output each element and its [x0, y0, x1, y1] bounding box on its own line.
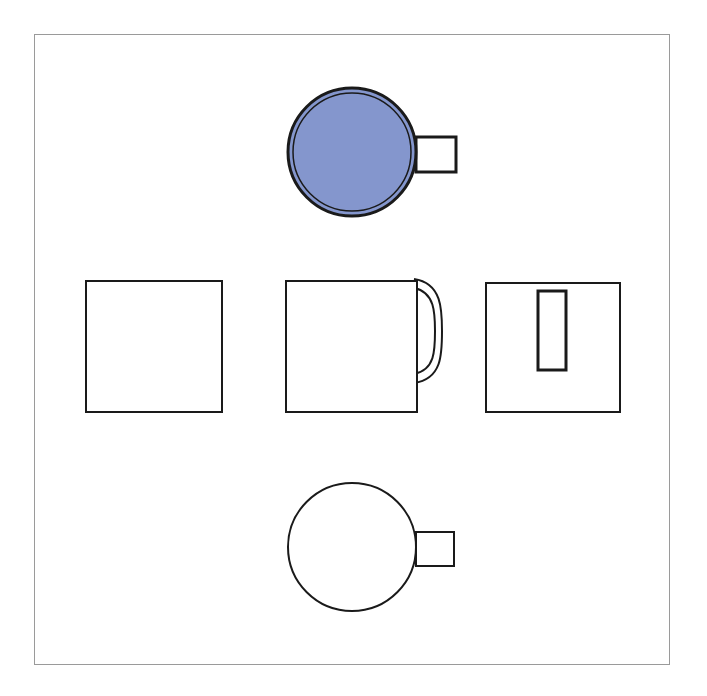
left-side-view	[86, 281, 222, 412]
orthographic-views-canvas	[0, 0, 707, 696]
bottom-view	[288, 483, 454, 611]
drawing-page	[0, 0, 707, 696]
bottom-view-circle	[288, 483, 416, 611]
front-view	[286, 279, 442, 412]
top-view	[288, 88, 456, 216]
top-view-handle	[416, 137, 456, 172]
bottom-view-handle-overlap-mask	[418, 534, 452, 564]
left-side-view-square	[86, 281, 222, 412]
rear-view-inner-rectangle	[538, 291, 566, 370]
rear-view	[486, 283, 620, 412]
front-view-square	[286, 281, 417, 412]
top-view-inner-circle	[293, 93, 411, 211]
